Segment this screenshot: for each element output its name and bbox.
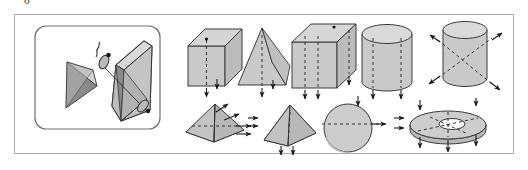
symmetry-arrow — [492, 33, 502, 40]
solid-cylinder-upright — [362, 25, 412, 100]
solid-square-pyramid-oblique — [186, 104, 251, 142]
solid-triangular-prism — [188, 29, 242, 97]
solid-annulus-disc — [394, 98, 486, 152]
solid-square-pyramid-upright — [248, 105, 316, 155]
cube-with-cut-corner-inset — [35, 26, 160, 129]
symmetry-arrow — [429, 76, 440, 84]
solid-cylinder-oblique — [429, 22, 502, 91]
disc-hole — [439, 119, 465, 130]
symmetry-arrow — [490, 82, 500, 90]
symmetry-arrow — [430, 35, 440, 42]
figure-root: 6 — [0, 0, 528, 170]
solid-tetrahedron-upright — [238, 28, 290, 97]
solid-sphere — [322, 96, 386, 153]
figure-canvas — [0, 0, 528, 170]
solid-cuboid — [292, 24, 356, 99]
